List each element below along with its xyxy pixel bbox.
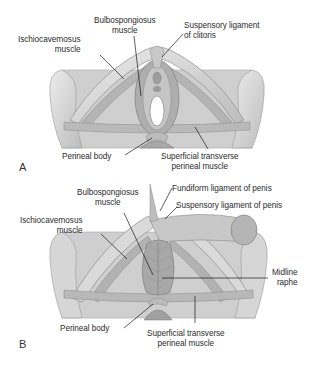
label-line: muscle (94, 26, 156, 36)
label-fundiform-ligament: Fundiform ligament of penis (172, 184, 272, 194)
label-line: muscle (77, 198, 139, 208)
label-line: raphe (272, 278, 298, 288)
label-line: muscle (18, 45, 80, 55)
label-line: perineal muscle (161, 162, 239, 172)
label-bulbospongiosus-a: Bulbospongiosus muscle (94, 16, 156, 35)
label-line: Midline (272, 268, 298, 278)
panel-b-male-perineum: Bulbospongiosus muscle Fundiform ligamen… (0, 180, 315, 367)
label-ischiocavernosus-b: Ischiocavernosus muscle (20, 216, 82, 235)
panel-a-female-perineum: Ischiocavernosus muscle Bulbospongiosus … (0, 0, 315, 180)
label-superficial-transverse-b: Superficial transverse perineal muscle (147, 329, 225, 348)
label-line: Perineal body (62, 152, 111, 162)
female-perineum-illustration (0, 0, 315, 180)
label-line: perineal muscle (147, 339, 225, 349)
label-line: of clitoris (184, 31, 260, 41)
label-suspensory-ligament-clitoris: Suspensory ligament of clitoris (184, 21, 260, 40)
label-bulbospongiosus-b: Bulbospongiosus muscle (77, 188, 139, 207)
label-line: Bulbospongiosus (94, 16, 156, 26)
label-line: muscle (20, 226, 82, 236)
label-superficial-transverse-a: Superficial transverse perineal muscle (161, 152, 239, 171)
label-perineal-body-b: Perineal body (60, 324, 109, 334)
label-line: Superficial transverse (147, 329, 225, 339)
label-line: Superficial transverse (161, 152, 239, 162)
label-suspensory-ligament-penis: Suspensory ligament of penis (176, 201, 282, 211)
label-line: Perineal body (60, 324, 109, 334)
label-midline-raphe: Midline raphe (272, 268, 298, 287)
label-line: Bulbospongiosus (77, 188, 139, 198)
panel-letter-a: A (19, 161, 26, 173)
label-line: Suspensory ligament (184, 21, 260, 31)
label-line: Ischiocavernosus (18, 35, 80, 45)
label-perineal-body-a: Perineal body (62, 152, 111, 162)
label-line: Suspensory ligament of penis (176, 201, 282, 211)
label-line: Ischiocavernosus (20, 216, 82, 226)
label-line: Fundiform ligament of penis (172, 184, 272, 194)
label-ischiocavernosus-a: Ischiocavernosus muscle (18, 35, 80, 54)
panel-letter-b: B (19, 338, 26, 350)
